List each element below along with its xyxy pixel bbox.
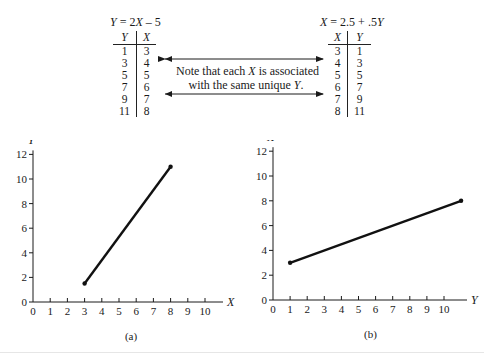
y-tick-label: 0 — [262, 294, 268, 306]
association-note: Note that each X is associated with the … — [176, 64, 316, 92]
y-tick-label: 8 — [262, 195, 268, 207]
note-var: X — [248, 64, 255, 78]
x-tick-label: 0 — [270, 303, 276, 315]
data-line — [290, 201, 461, 263]
x-tick-label: 7 — [151, 305, 157, 317]
note-text: with the same unique — [189, 78, 294, 92]
note-text: is associated — [256, 64, 319, 78]
x-tick-label: 4 — [99, 305, 105, 317]
note-text: . — [301, 78, 304, 92]
x-tick-label: 6 — [133, 305, 139, 317]
x-tick-label: 3 — [82, 305, 88, 317]
y-tick-label: 2 — [22, 271, 28, 283]
chart-a: 024681012012345678910YX(a) — [0, 140, 242, 356]
x-tick-label: 10 — [200, 305, 212, 317]
data-point — [82, 281, 86, 285]
x-tick-label: 0 — [30, 305, 36, 317]
y-tick-label: 12 — [256, 145, 267, 157]
data-point — [288, 261, 292, 265]
data-point — [168, 165, 172, 169]
y-axis-label: Y — [28, 140, 36, 147]
x-tick-label: 8 — [407, 303, 413, 315]
x-tick-label: 5 — [356, 303, 362, 315]
note-line-1: Note that each X is associated — [176, 64, 316, 78]
x-axis-label: X — [226, 295, 235, 309]
x-tick-label: 6 — [373, 303, 379, 315]
y-tick-label: 12 — [16, 148, 27, 160]
x-tick-label: 1 — [47, 305, 53, 317]
bottom-divider — [0, 352, 484, 353]
x-tick-label: 9 — [424, 303, 430, 315]
x-tick-label: 5 — [116, 305, 122, 317]
x-tick-label: 9 — [185, 305, 191, 317]
chart-b: 024681012012345678910XY(b) — [242, 140, 484, 356]
y-tick-label: 2 — [262, 269, 268, 281]
y-tick-label: 0 — [22, 296, 28, 308]
x-tick-label: 8 — [168, 305, 174, 317]
x-tick-label: 2 — [65, 305, 71, 317]
y-tick-label: 8 — [22, 198, 28, 210]
x-axis-label: Y — [471, 293, 479, 307]
y-tick-label: 10 — [16, 173, 28, 185]
chart-caption: (b) — [364, 328, 377, 341]
x-tick-label: 2 — [304, 303, 310, 315]
x-tick-label: 3 — [322, 303, 328, 315]
note-text: Note that each — [176, 64, 248, 78]
note-var: Y — [294, 78, 301, 92]
x-tick-label: 10 — [439, 303, 451, 315]
y-tick-label: 4 — [22, 247, 28, 259]
y-tick-label: 6 — [22, 222, 28, 234]
data-point — [459, 199, 463, 203]
y-tick-label: 4 — [262, 244, 268, 256]
note-line-2: with the same unique Y. — [176, 78, 316, 92]
y-axis-label: X — [266, 140, 275, 144]
x-tick-label: 4 — [339, 303, 345, 315]
y-tick-label: 6 — [262, 220, 268, 232]
y-tick-label: 10 — [256, 170, 268, 182]
x-tick-label: 1 — [287, 303, 293, 315]
data-line — [85, 167, 171, 284]
chart-caption: (a) — [125, 330, 138, 343]
double-arrows — [0, 0, 484, 110]
x-tick-label: 7 — [390, 303, 396, 315]
